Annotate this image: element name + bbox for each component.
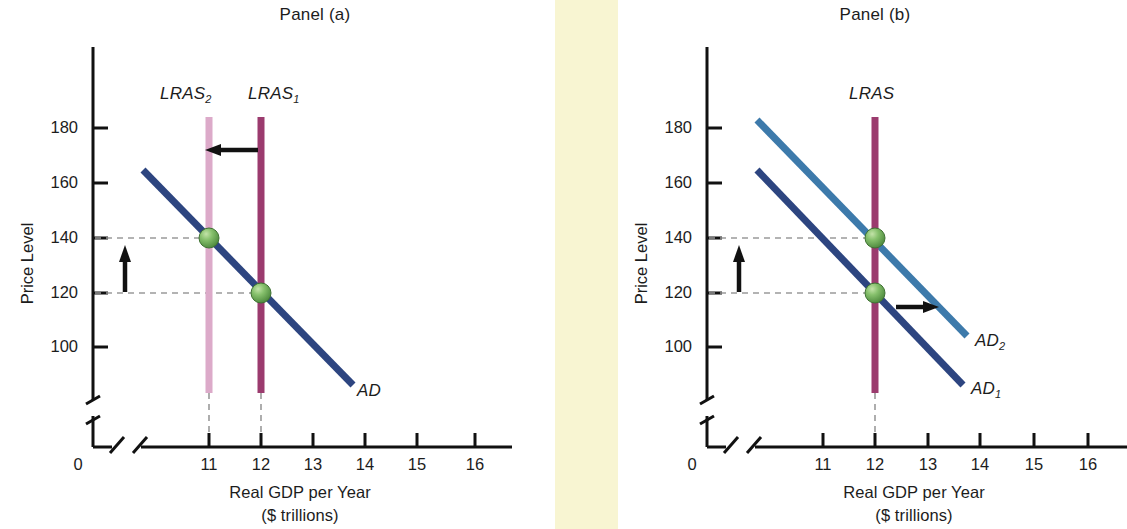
panel-a-curves	[143, 117, 353, 393]
panel-b-curves	[757, 117, 967, 393]
economics-figure: Panel (a) Panel (b) Price Level Real GDP…	[0, 0, 1127, 529]
plot-graphics-layer	[0, 0, 1127, 529]
panel-b-equilibrium-point-120	[865, 283, 885, 303]
panel-b-ad2-curve	[757, 120, 967, 336]
panel-a-x-axis-break-mark-2	[133, 437, 147, 453]
panel-a-axes	[86, 47, 512, 453]
panel-b-x-axis-break-mark	[724, 437, 738, 453]
panel-a-x-axis-break-mark	[110, 437, 124, 453]
panel-a-up-arrow-head	[119, 245, 131, 262]
panel-a-equilibrium-point-140	[199, 228, 219, 248]
panel-b-ad1-curve	[757, 170, 963, 385]
panel-b-up-arrow-head	[733, 245, 745, 262]
panel-b-axes	[700, 47, 1127, 453]
panel-a-ad-curve	[143, 170, 353, 385]
panel-a-equilibrium-point-120	[251, 283, 271, 303]
panel-b-x-axis-break-mark-2	[747, 437, 761, 453]
panel-b-equilibrium-point-140	[865, 228, 885, 248]
